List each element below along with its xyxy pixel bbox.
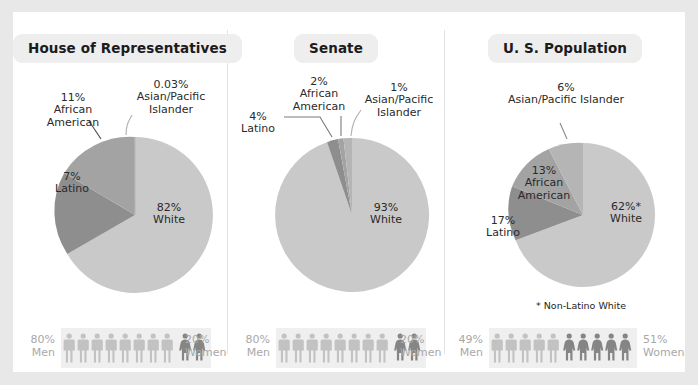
pie-label-asian-senate-pct: 1% bbox=[390, 81, 407, 94]
pie-label-asian-us-pct: 6% bbox=[557, 81, 574, 94]
pie-label-white-house: 82% White bbox=[141, 202, 197, 227]
pie-label-african-american-us-g2: American bbox=[518, 189, 570, 202]
pie-label-african-american-senate-g2: American bbox=[293, 100, 345, 113]
people-figures-women-us bbox=[563, 328, 637, 368]
people-figures-men-us bbox=[489, 328, 563, 368]
people-strip-house bbox=[61, 328, 179, 368]
gender-men-label-us: Men bbox=[460, 346, 483, 359]
gender-row-senate: 80% Men bbox=[228, 328, 444, 368]
pie-label-african-american-senate-pct: 2% bbox=[310, 75, 327, 88]
leader-line-asian-house bbox=[126, 115, 132, 135]
infographic-frame: House of Representatives 11% African Ame… bbox=[13, 12, 685, 372]
pie-label-latino-senate-g1: Latino bbox=[241, 122, 275, 135]
panel-house: House of Representatives 11% African Ame… bbox=[13, 12, 227, 372]
pie-label-african-american-senate-g1: African bbox=[300, 87, 338, 100]
pie-label-asian-house-pct: 0.03% bbox=[154, 78, 189, 91]
pie-label-latino-house: 7% Latino bbox=[45, 171, 99, 196]
panel-us-population: U. S. Population 6% Asian/Pacific Island… bbox=[445, 12, 685, 372]
pie-label-latino-us-pct: 17% bbox=[491, 214, 515, 227]
pie-label-white-house-g1: White bbox=[153, 213, 185, 226]
pie-label-white-house-pct: 82% bbox=[157, 201, 181, 214]
people-strip-senate bbox=[276, 328, 394, 368]
pie-label-white-us-pct: 62%* bbox=[611, 200, 641, 213]
people-men-senate bbox=[279, 333, 388, 362]
pie-label-latino-house-g1: Latino bbox=[55, 182, 89, 195]
gender-women-pct-us: 51% bbox=[643, 333, 667, 346]
gender-women-pct-senate: 20% bbox=[400, 333, 424, 346]
gender-women-label-house: Women bbox=[185, 346, 226, 359]
people-men-us bbox=[492, 333, 559, 362]
gender-men-pct-senate: 80% bbox=[246, 333, 270, 346]
leader-line-asian-us bbox=[560, 123, 567, 139]
pie-label-latino-house-pct: 7% bbox=[63, 170, 80, 183]
people-women-us bbox=[563, 333, 631, 360]
pie-label-african-american-house-pct: 11% bbox=[61, 91, 85, 104]
gender-women-pct-house: 20% bbox=[185, 333, 209, 346]
pie-label-white-us: 62%* White bbox=[597, 201, 655, 226]
gender-men-label-house: Men bbox=[32, 346, 55, 359]
pie-label-latino-us: 17% Latino bbox=[475, 215, 531, 240]
pie-label-white-us-g1: White bbox=[610, 212, 642, 225]
gender-women-us: 51% Women bbox=[643, 334, 698, 359]
pie-label-white-senate: 93% White bbox=[358, 202, 414, 227]
pie-label-asian-senate-g2: Islander bbox=[377, 106, 421, 119]
pie-label-latino-us-g1: Latino bbox=[486, 226, 520, 239]
panel-senate: Senate 2% African American bbox=[228, 12, 444, 372]
pie-label-african-american-house-g2: American bbox=[47, 116, 99, 129]
pie-label-white-senate-pct: 93% bbox=[374, 201, 398, 214]
pie-label-asian-house-g1: Asian/Pacific bbox=[137, 90, 206, 103]
pie-label-african-american-senate: 2% African American bbox=[277, 76, 361, 113]
people-strip-women-us bbox=[563, 328, 637, 368]
infographic-root: House of Representatives 11% African Ame… bbox=[0, 0, 698, 385]
pie-label-african-american-us-g1: African bbox=[525, 176, 563, 189]
pie-chart-senate bbox=[228, 12, 444, 372]
people-men-house bbox=[64, 333, 173, 362]
pie-footnote-us: * Non-Latino White bbox=[491, 300, 671, 311]
gender-women-label-senate: Women bbox=[400, 346, 441, 359]
pie-label-asian-us: 6% Asian/Pacific Islander bbox=[481, 82, 651, 107]
pie-label-asian-senate-g1: Asian/Pacific bbox=[365, 93, 434, 106]
pie-label-asian-house: 0.03% Asian/Pacific Islander bbox=[123, 79, 219, 116]
gender-men-label-senate: Men bbox=[247, 346, 270, 359]
people-figures-house bbox=[61, 328, 179, 368]
pie-label-african-american-us: 13% African American bbox=[505, 165, 583, 202]
pie-label-asian-senate: 1% Asian/Pacific Islander bbox=[354, 82, 444, 119]
pie-label-latino-senate: 4% Latino bbox=[234, 111, 282, 136]
pie-label-latino-senate-pct: 4% bbox=[249, 110, 266, 123]
pie-label-african-american-us-pct: 13% bbox=[532, 164, 556, 177]
people-figures-senate bbox=[276, 328, 394, 368]
gender-row-us: 49% Men bbox=[445, 328, 685, 368]
gender-row-house: 80% Men bbox=[13, 328, 227, 368]
gender-women-label-us: Women bbox=[643, 346, 684, 359]
pie-label-asian-house-g2: Islander bbox=[149, 103, 193, 116]
pie-label-african-american-house-g1: African bbox=[54, 103, 92, 116]
gender-men-house: 80% Men bbox=[19, 334, 55, 359]
gender-men-pct-house: 80% bbox=[31, 333, 55, 346]
gender-men-senate: 80% Men bbox=[234, 334, 270, 359]
gender-men-pct-us: 49% bbox=[459, 333, 483, 346]
pie-label-white-senate-g1: White bbox=[370, 213, 402, 226]
pie-label-african-american-house: 11% African American bbox=[31, 92, 115, 129]
leader-line-latino-senate bbox=[284, 117, 332, 137]
people-strip-us bbox=[489, 328, 563, 368]
gender-men-us: 49% Men bbox=[445, 334, 483, 359]
pie-label-asian-us-g1: Asian/Pacific Islander bbox=[508, 93, 624, 106]
